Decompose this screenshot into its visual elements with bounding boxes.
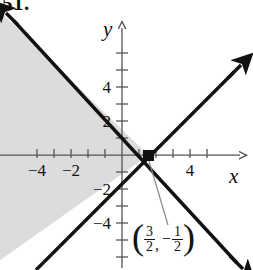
x-coordinate-fraction: 32 <box>144 225 155 255</box>
point-leader-line <box>149 161 168 225</box>
increasing-line-arrow-upper-right <box>228 65 241 78</box>
y-numerator: 1 <box>172 225 183 239</box>
figure-container: 51. <box>0 0 253 270</box>
y-tick-label-minus4: −4 <box>93 214 112 233</box>
y-tick-label-4: 4 <box>103 78 112 97</box>
label-close-paren: ) <box>183 217 195 257</box>
intersection-point-marker <box>143 150 154 161</box>
intersection-point-label: (32,−12) <box>132 226 195 256</box>
y-coordinate-fraction: 12 <box>172 225 183 255</box>
y-denominator: 2 <box>172 239 183 254</box>
shaded-solution-region <box>0 8 149 264</box>
label-minus-sign: − <box>161 231 172 247</box>
x-tick-label-minus2: −2 <box>62 161 80 180</box>
coordinate-graph: x y −4 −2 4 4 2 −2 −4 <box>0 0 253 270</box>
x-denominator: 2 <box>144 239 155 254</box>
x-axis-label: x <box>228 164 239 188</box>
decreasing-line-arrow-lower-right <box>230 256 243 269</box>
x-numerator: 3 <box>144 225 155 239</box>
label-open-paren: ( <box>132 217 144 257</box>
y-axis-label: y <box>101 17 113 41</box>
x-tick-label-minus4: −4 <box>28 161 47 180</box>
x-tick-label-4: 4 <box>186 161 195 180</box>
